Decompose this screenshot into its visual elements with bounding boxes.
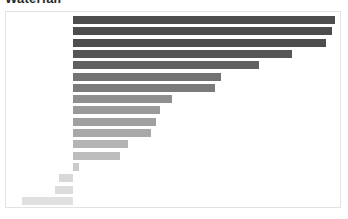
bar (73, 140, 128, 148)
bar (73, 73, 221, 81)
bar (73, 50, 292, 58)
bar (73, 152, 120, 160)
plot-area (6, 12, 342, 209)
bar (73, 129, 151, 137)
bar (73, 39, 326, 47)
bar (73, 61, 259, 69)
plot-frame (5, 11, 341, 208)
bar (73, 106, 160, 114)
bar (73, 16, 335, 24)
bar (73, 84, 215, 92)
bar (73, 118, 156, 126)
bar (73, 27, 332, 35)
bar (73, 95, 172, 103)
bar (55, 186, 73, 194)
chart-title: Waterfall (5, 0, 61, 6)
bar (59, 174, 73, 182)
bar (73, 163, 79, 171)
figure-canvas: Waterfall (0, 0, 348, 219)
bar (22, 197, 73, 205)
chart-title-clip: Waterfall (0, 0, 348, 7)
